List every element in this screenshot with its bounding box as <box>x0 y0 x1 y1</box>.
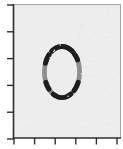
noise-pixel <box>69 28 70 29</box>
noise-pixel <box>16 125 17 126</box>
noise-pixel <box>30 126 31 127</box>
noise-pixel <box>81 126 82 127</box>
noise-pixel <box>81 119 82 120</box>
noise-pixel <box>63 83 64 84</box>
noise-pixel <box>35 132 36 133</box>
noise-pixel <box>37 79 38 80</box>
noise-pixel <box>100 38 101 39</box>
digit-plot <box>0 0 123 149</box>
noise-pixel <box>110 32 111 33</box>
noise-pixel <box>18 123 19 124</box>
noise-pixel <box>97 120 98 121</box>
noise-pixel <box>49 104 50 105</box>
noise-pixel <box>36 47 37 48</box>
noise-pixel <box>68 96 69 97</box>
noise-pixel <box>93 77 94 78</box>
noise-pixel <box>104 89 105 90</box>
noise-pixel <box>41 101 42 102</box>
noise-pixel <box>57 43 58 44</box>
noise-pixel <box>117 135 118 136</box>
noise-pixel <box>73 72 74 73</box>
digit-ring-dark-segment <box>45 55 48 63</box>
noise-pixel <box>29 95 30 96</box>
noise-pixel <box>112 58 113 59</box>
noise-pixel <box>106 58 107 59</box>
noise-pixel <box>27 126 28 127</box>
noise-pixel <box>86 37 87 38</box>
noise-pixel <box>107 124 108 125</box>
noise-pixel <box>17 38 18 39</box>
noise-pixel <box>31 45 32 46</box>
noise-pixel <box>107 79 108 80</box>
noise-pixel <box>65 30 66 31</box>
noise-pixel <box>74 94 75 95</box>
noise-pixel <box>60 44 61 45</box>
noise-pixel <box>92 70 93 71</box>
noise-pixel <box>79 36 80 37</box>
noise-pixel <box>87 13 88 14</box>
noise-pixel <box>54 122 55 123</box>
digit-ring-dark-segment <box>74 54 77 60</box>
noise-pixel <box>81 73 82 74</box>
noise-pixel <box>95 129 96 130</box>
noise-pixel <box>106 37 107 38</box>
noise-pixel <box>107 122 108 123</box>
noise-pixel <box>67 79 68 80</box>
noise-pixel <box>52 87 53 88</box>
noise-pixel <box>50 57 51 58</box>
noise-pixel <box>102 49 103 50</box>
noise-pixel <box>86 67 87 68</box>
noise-pixel <box>27 113 28 114</box>
noise-pixel <box>88 99 89 100</box>
noise-pixel <box>86 89 87 90</box>
noise-pixel <box>109 66 110 67</box>
noise-pixel <box>53 51 54 52</box>
noise-pixel <box>24 59 25 60</box>
plot-area <box>14 4 121 138</box>
noise-pixel <box>109 124 110 125</box>
noise-pixel <box>94 42 95 43</box>
noise-pixel <box>111 96 112 97</box>
noise-pixel <box>28 70 29 71</box>
figure <box>0 0 123 149</box>
noise-pixel <box>107 118 108 119</box>
noise-pixel <box>112 79 113 80</box>
noise-pixel <box>94 61 95 62</box>
noise-pixel <box>88 39 89 40</box>
noise-pixel <box>40 59 41 60</box>
noise-pixel <box>23 6 24 7</box>
noise-pixel <box>31 16 32 17</box>
noise-pixel <box>54 98 55 99</box>
noise-pixel <box>91 50 92 51</box>
noise-pixel <box>82 81 83 82</box>
noise-pixel <box>45 33 46 34</box>
noise-pixel <box>109 13 110 14</box>
noise-pixel <box>21 106 22 107</box>
noise-pixel <box>82 24 83 25</box>
noise-pixel <box>84 126 85 127</box>
noise-pixel <box>76 52 77 53</box>
noise-pixel <box>91 120 92 121</box>
noise-pixel <box>118 130 119 131</box>
noise-pixel <box>108 11 109 12</box>
noise-pixel <box>81 25 82 26</box>
noise-pixel <box>43 35 44 36</box>
noise-pixel <box>22 42 23 43</box>
noise-pixel <box>53 61 54 62</box>
noise-pixel <box>118 35 119 36</box>
noise-pixel <box>59 31 60 32</box>
noise-pixel <box>67 10 68 11</box>
noise-pixel <box>50 75 51 76</box>
noise-pixel <box>90 61 91 62</box>
noise-pixel <box>28 73 29 74</box>
noise-pixel <box>91 75 92 76</box>
digit-ring-dark-segment <box>46 82 49 89</box>
noise-pixel <box>111 111 112 112</box>
